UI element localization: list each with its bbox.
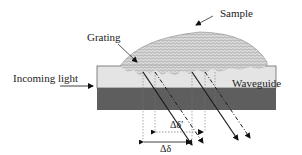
incoming-light-label: Incoming light (13, 73, 78, 84)
delta-delta-prime-label: Δδ′ (170, 120, 183, 130)
delta-delta-label: Δδ (160, 144, 171, 154)
sample-dome (120, 32, 267, 66)
substrate-layer (97, 88, 276, 110)
sample-pointer (196, 16, 213, 25)
waveguide-label: Waveguide (232, 78, 281, 89)
waveguide-grating-diagram: Sample Grating Incoming light Waveguide … (0, 0, 302, 155)
sample-label: Sample (220, 8, 253, 19)
grating-label: Grating (87, 32, 121, 43)
